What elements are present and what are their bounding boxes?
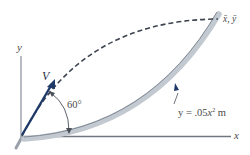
landing-point-label: x̄, ȳ [223,15,236,25]
landing-point-coords: x̄, ȳ [223,14,236,24]
velocity-label: V [42,70,49,82]
equation-prefix: y = .05 [178,107,208,118]
track-support-stub [16,137,22,148]
diagram-canvas [0,0,250,155]
angle-label: 60° [67,100,82,111]
track-equation-label: y = .05x2 m [178,107,226,119]
x-axis-label: x [234,130,239,141]
equation-leader-line [174,93,178,104]
parabolic-track [24,14,219,139]
equation-leader-arrowhead-icon [174,83,179,91]
velocity-vector [22,84,52,135]
angle-arrowhead-top-icon [49,91,55,97]
y-axis-label: y [17,42,22,53]
equation-unit: m [215,107,226,118]
